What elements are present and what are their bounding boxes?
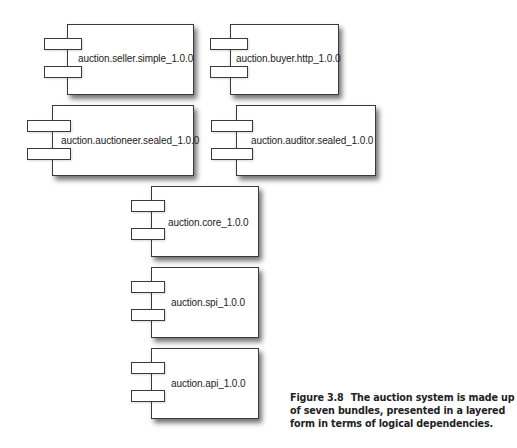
component-tab-icon bbox=[131, 390, 165, 402]
component-tab-icon bbox=[27, 120, 71, 132]
component-tab-icon bbox=[131, 200, 165, 212]
component-tab-icon bbox=[210, 38, 248, 50]
component-tab-icon bbox=[131, 362, 165, 374]
component-tab-icon bbox=[210, 66, 248, 78]
bundle-seller-label: auction.seller.simple_1.0.0 bbox=[78, 53, 193, 64]
component-tab-icon bbox=[211, 120, 253, 132]
component-tab-icon bbox=[44, 66, 82, 78]
figure-caption: Figure 3.8The auction system is made up … bbox=[290, 391, 515, 431]
bundle-spi-label: auction.spi_1.0.0 bbox=[171, 297, 245, 308]
bundle-api-label: auction.api_1.0.0 bbox=[171, 378, 245, 389]
bundle-auctioneer-label: auction.auctioneer.sealed_1.0.0 bbox=[61, 135, 199, 146]
figure-number: Figure 3.8 bbox=[290, 392, 344, 403]
component-tab-icon bbox=[131, 281, 165, 293]
component-tab-icon bbox=[44, 38, 82, 50]
component-tab-icon bbox=[131, 228, 165, 240]
bundle-core-label: auction.core_1.0.0 bbox=[168, 217, 248, 228]
bundle-buyer-label: auction.buyer.http_1.0.0 bbox=[236, 53, 340, 64]
component-tab-icon bbox=[211, 148, 253, 160]
component-tab-icon bbox=[27, 148, 71, 160]
component-tab-icon bbox=[131, 309, 165, 321]
bundle-auditor-label: auction.auditor.sealed_1.0.0 bbox=[251, 135, 373, 146]
